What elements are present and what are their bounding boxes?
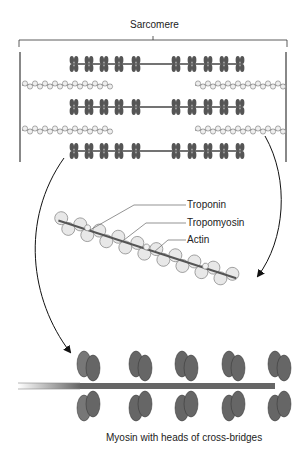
- z-line-left: [19, 52, 21, 162]
- myosin-filament-detail: [18, 351, 291, 421]
- sarcomere-diagram: Sarcomere Troponin Tropomyosin Actin Myo…: [0, 0, 306, 454]
- arrow-to-myosin: [35, 158, 70, 352]
- sarcomere-bracket: [19, 36, 287, 47]
- myosin-label: Myosin with heads of cross-bridges: [106, 432, 262, 443]
- diagram-canvas: [0, 0, 306, 454]
- thick-filaments: [70, 56, 245, 159]
- actin-label: Actin: [187, 234, 209, 245]
- troponin-label: Troponin: [187, 199, 226, 210]
- arrow-to-actin: [258, 136, 281, 276]
- sarcomere-label: Sarcomere: [130, 19, 179, 30]
- tropomyosin-label: Tropomyosin: [187, 217, 244, 228]
- z-line-right: [285, 52, 287, 162]
